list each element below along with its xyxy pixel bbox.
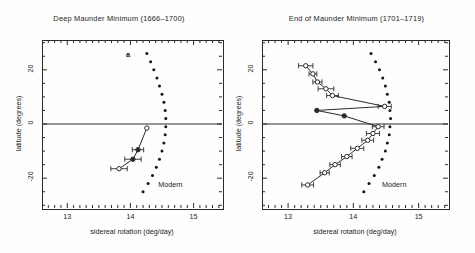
panel-deep-maunder-minimum: Deep Maunder Minimum (1666–1700) latitud… xyxy=(0,0,238,253)
plot-graphics-right xyxy=(238,0,475,253)
solar-rotation-figure: Deep Maunder Minimum (1666–1700) latitud… xyxy=(0,0,475,253)
panel-end-of-maunder-minimum: End of Maunder Minimum (1701–1719) latit… xyxy=(238,0,475,253)
plot-graphics-left xyxy=(0,0,238,253)
